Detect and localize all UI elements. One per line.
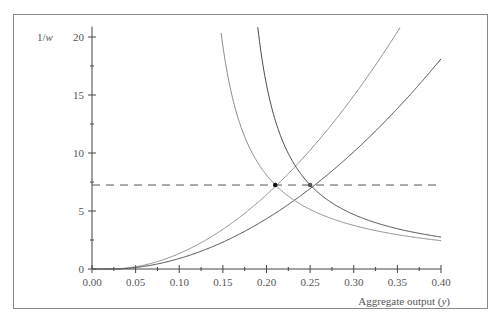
intersection-dot [308,183,313,188]
y-tick-label: 15 [73,89,85,101]
falling-curve-dark [258,27,441,237]
rising-curve-dark [92,59,441,269]
x-tick-label: 0.10 [170,276,190,288]
x-tick-label: 0.20 [257,276,277,288]
x-tick-label: 0.40 [431,276,451,288]
falling-curve-light [221,33,441,241]
intersection-dot [273,183,278,188]
curves [92,27,441,269]
y-tick-label: 0 [79,263,85,275]
chart-plot: 0.000.050.100.150.200.250.300.350.400510… [0,0,502,324]
x-tick-label: 0.00 [82,276,102,288]
x-tick-label: 0.15 [213,276,233,288]
x-axis-label: Aggregate output (y) [358,295,450,308]
y-tick-label: 5 [79,205,85,217]
y-tick-label: 10 [73,147,85,159]
y-tick-label: 20 [73,31,85,43]
x-tick-label: 0.25 [301,276,321,288]
x-tick-label: 0.05 [126,276,146,288]
rising-curve-light [92,28,400,269]
x-tick-label: 0.35 [388,276,408,288]
y-axis-label: 1/w [37,31,54,43]
axes: 0.000.050.100.150.200.250.300.350.400510… [73,27,451,288]
x-tick-label: 0.30 [344,276,364,288]
